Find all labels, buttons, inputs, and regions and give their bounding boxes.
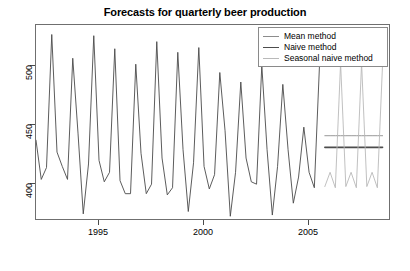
legend-label-seasonal-naive: Seasonal naive method bbox=[284, 53, 373, 64]
legend-item-mean: Mean method bbox=[263, 31, 383, 42]
y-tick-label-400: 400 bbox=[24, 183, 34, 213]
series-line bbox=[325, 63, 383, 188]
x-tick-label-2000: 2000 bbox=[183, 227, 223, 237]
y-tick-label-500: 500 bbox=[24, 65, 34, 95]
y-tick-label-450: 450 bbox=[24, 124, 34, 154]
legend-label-naive: Naive method bbox=[284, 42, 336, 53]
chart-title: Forecasts for quarterly beer production bbox=[0, 6, 410, 18]
legend-label-mean: Mean method bbox=[284, 31, 336, 42]
legend-swatch-naive-icon bbox=[263, 47, 279, 48]
x-tick-label-2005: 2005 bbox=[288, 227, 328, 237]
legend-item-seasonal-naive: Seasonal naive method bbox=[263, 53, 383, 64]
legend-swatch-seasonal-naive-icon bbox=[263, 58, 279, 59]
chart-figure: Forecasts for quarterly beer production … bbox=[0, 0, 410, 271]
legend-swatch-mean-icon bbox=[263, 36, 279, 37]
x-tick-label-1995: 1995 bbox=[78, 227, 118, 237]
legend-item-naive: Naive method bbox=[263, 42, 383, 53]
chart-legend: Mean method Naive method Seasonal naive … bbox=[258, 27, 388, 67]
